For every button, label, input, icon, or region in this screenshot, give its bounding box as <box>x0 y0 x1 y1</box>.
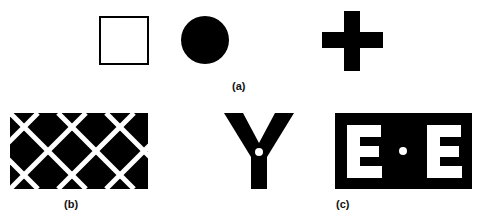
plus-sign <box>322 11 383 71</box>
e-dot-e-panel <box>335 113 472 189</box>
diagonal-lattice-pattern <box>10 113 148 189</box>
panel-c-label: (c) <box>336 198 349 210</box>
panel-b-label: (b) <box>64 198 78 210</box>
outlined-square <box>99 16 149 65</box>
filled-circle <box>181 16 229 64</box>
letter-y-figure <box>224 113 294 189</box>
panel-a-label: (a) <box>232 80 245 92</box>
